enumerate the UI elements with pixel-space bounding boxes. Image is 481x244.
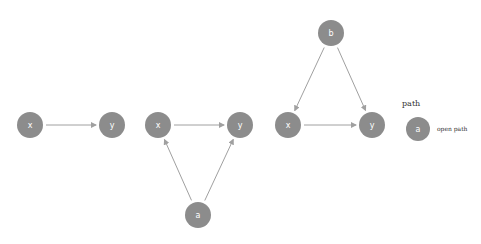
edges xyxy=(46,47,365,200)
node-label: a xyxy=(196,211,201,220)
legend: path a open path xyxy=(402,99,468,141)
node-y3: y xyxy=(359,112,385,138)
node-label: y xyxy=(110,121,115,130)
node-y1: y xyxy=(99,112,125,138)
legend-node-label: a xyxy=(416,125,421,134)
node-label: x xyxy=(156,121,161,130)
node-label: y xyxy=(238,121,243,130)
node-label: b xyxy=(328,29,333,38)
edge-b-to-y3 xyxy=(338,48,366,111)
dag-canvas: xyxyabxy path a open path xyxy=(0,0,481,244)
legend-title: path xyxy=(402,99,420,108)
node-a: a xyxy=(185,202,211,228)
node-label: x xyxy=(286,121,291,130)
node-x3: x xyxy=(275,112,301,138)
edge-a-to-y2 xyxy=(205,139,233,200)
node-b: b xyxy=(318,20,344,46)
nodes: xyxyabxy xyxy=(17,20,385,228)
node-y2: y xyxy=(227,112,253,138)
legend-entry-label: open path xyxy=(437,125,468,133)
node-label: y xyxy=(370,121,375,130)
edge-a-to-x2 xyxy=(164,140,191,201)
node-x1: x xyxy=(17,112,43,138)
node-x2: x xyxy=(145,112,171,138)
legend-node: a xyxy=(406,117,430,141)
edge-b-to-x3 xyxy=(295,47,324,110)
node-label: x xyxy=(28,121,33,130)
